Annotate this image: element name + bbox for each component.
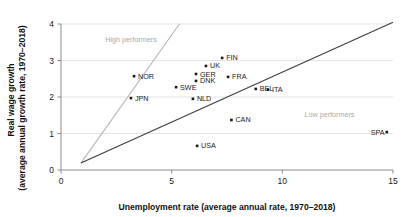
data-marker-NOR xyxy=(133,75,136,78)
x-axis-title: Unemployment rate (average annual rate, … xyxy=(119,202,336,212)
data-label-SWE: SWE xyxy=(180,83,197,92)
data-label-FRA: FRA xyxy=(232,72,247,81)
data-marker-FIN xyxy=(221,57,224,60)
scatter-chart: High performersLow performers NORJPNSWEN… xyxy=(0,0,412,217)
data-label-FIN: FIN xyxy=(226,53,238,62)
x-tick-label-15: 15 xyxy=(388,176,398,186)
y-axis-title-line2: (average annual growth rate, 1970–2018) xyxy=(17,25,27,190)
data-marker-UK xyxy=(205,65,208,68)
y-tick-label-3: 3 xyxy=(49,56,54,66)
data-marker-SPA xyxy=(386,131,389,134)
data-label-NOR: NOR xyxy=(138,72,154,81)
data-label-ITA: ITA xyxy=(272,85,283,94)
data-marker-NLD xyxy=(192,98,195,101)
chart-canvas: High performersLow performers NORJPNSWEN… xyxy=(0,0,412,217)
data-label-CAN: CAN xyxy=(235,115,250,124)
y-axis-title-line1: Real wage growth xyxy=(6,63,16,136)
data-marker-USA xyxy=(196,145,199,148)
data-marker-BEL xyxy=(254,88,257,91)
data-label-DNK: DNK xyxy=(200,76,215,85)
y-tick-label-4: 4 xyxy=(49,19,54,29)
data-marker-JPN xyxy=(130,97,133,100)
y-tick-label-0: 0 xyxy=(49,165,54,175)
data-label-NLD: NLD xyxy=(197,94,211,103)
data-marker-CAN xyxy=(230,119,233,122)
zone-label-0: High performers xyxy=(105,35,157,44)
data-label-JPN: JPN xyxy=(135,94,149,103)
zone-label-1: Low performers xyxy=(304,110,354,119)
data-marker-FRA xyxy=(227,76,230,79)
data-marker-DNK xyxy=(195,80,198,83)
y-tick-label-2: 2 xyxy=(49,92,54,102)
data-marker-GER xyxy=(195,73,198,76)
data-marker-ITA xyxy=(267,88,270,91)
reference-line-upper-frontier xyxy=(81,24,179,163)
x-tick-label-10: 10 xyxy=(278,176,288,186)
data-label-UK: UK xyxy=(210,61,220,70)
data-marker-SWE xyxy=(175,86,178,89)
x-tick-label-5: 5 xyxy=(169,176,174,186)
data-label-USA: USA xyxy=(201,141,216,150)
data-points-group: NORJPNSWENLDGERDNKUSAUKFINFRACANBELITASP… xyxy=(130,53,388,150)
x-tick-label-0: 0 xyxy=(59,176,64,186)
data-label-SPA: SPA xyxy=(371,128,385,137)
y-tick-label-1: 1 xyxy=(49,129,54,139)
